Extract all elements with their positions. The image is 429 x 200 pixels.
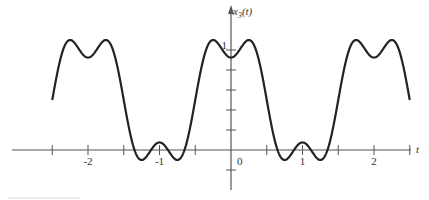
- x-tick-label: 1: [300, 155, 306, 167]
- axes: [12, 5, 411, 190]
- y-axis-label: x3(t): [232, 5, 253, 20]
- x-tick-label: 2: [371, 155, 377, 167]
- y-tick-label: 1: [222, 39, 228, 51]
- x-tick-label: 0: [237, 155, 243, 167]
- chart: -2-10121 x3(t) t: [0, 0, 429, 200]
- x-tick-label: -1: [155, 155, 164, 167]
- x-tick-label: -2: [83, 155, 92, 167]
- x-axis-label: t: [416, 143, 420, 155]
